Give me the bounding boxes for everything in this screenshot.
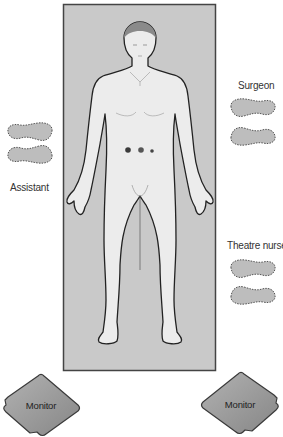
port-site-1 — [125, 147, 131, 153]
theatre-diagram: Surgeon Assistant Theatre nurse Monitor … — [0, 0, 283, 437]
monitor-left-label: Monitor — [26, 400, 56, 411]
assistant-footprints — [8, 123, 52, 163]
surgeon-footprints — [231, 99, 275, 145]
port-site-2 — [138, 147, 144, 153]
monitor-right-label: Monitor — [225, 399, 255, 410]
port-site-3 — [150, 149, 154, 153]
assistant-label: Assistant — [10, 182, 49, 193]
surgeon-label: Surgeon — [238, 80, 274, 91]
theatre-nurse-label: Theatre nurse — [227, 240, 283, 251]
diagram-canvas — [0, 0, 283, 437]
theatre-nurse-footprints — [231, 260, 275, 304]
